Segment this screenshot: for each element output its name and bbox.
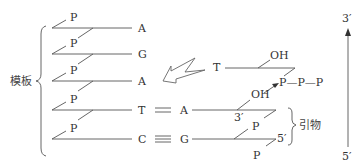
primer-base-label: A bbox=[179, 104, 189, 117]
triple-bond-icon bbox=[155, 136, 171, 142]
phosphate-label: P bbox=[70, 11, 78, 24]
primer-nucleotide-1: A OH 3′ P bbox=[179, 88, 276, 133]
incoming-nucleotide: T OH P—P—P bbox=[213, 49, 324, 89]
base-label: A bbox=[137, 22, 147, 35]
double-bond-icon bbox=[155, 108, 171, 112]
incoming-base-label: T bbox=[213, 61, 221, 74]
triphosphate-label: P—P—P bbox=[279, 76, 324, 89]
template-nucleotide-5: P C bbox=[52, 122, 146, 146]
hydroxyl-label: OH bbox=[251, 88, 270, 101]
template-nucleotide-1: P A bbox=[52, 11, 147, 38]
phosphate-label: P bbox=[70, 93, 78, 106]
phosphate-label: P bbox=[252, 120, 260, 133]
primer-base-label: G bbox=[180, 133, 189, 146]
base-label: G bbox=[138, 48, 147, 61]
diagram-canvas: 模板 P A P G P A P bbox=[0, 0, 362, 167]
primer-group: 引物 bbox=[288, 108, 321, 145]
axis-arrowhead-icon bbox=[345, 28, 351, 36]
direction-axis: 3′ 5′ bbox=[342, 12, 352, 163]
five-prime-label: 5′ bbox=[277, 132, 287, 145]
phosphate-label: P bbox=[70, 64, 78, 77]
template-brace bbox=[36, 26, 46, 156]
template-nucleotide-3: P A bbox=[52, 64, 147, 91]
template-nucleotide-2: P G bbox=[52, 37, 147, 64]
template-group: 模板 bbox=[10, 26, 46, 156]
hydroxyl-label: OH bbox=[270, 49, 289, 62]
base-label: T bbox=[138, 104, 146, 117]
primer-strand: A OH 3′ P G 5′ P bbox=[179, 88, 287, 162]
template-nucleotide-4: P T bbox=[52, 93, 146, 120]
phosphate-label: P bbox=[253, 149, 261, 162]
base-label: A bbox=[137, 75, 147, 88]
axis-top-label: 3′ bbox=[342, 12, 352, 25]
primer-brace bbox=[288, 108, 296, 145]
base-label: C bbox=[138, 133, 146, 146]
template-label: 模板 bbox=[10, 74, 32, 88]
hollow-arrow-icon bbox=[163, 58, 205, 83]
phosphate-label: P bbox=[70, 37, 78, 50]
template-strand: P A P G P A P T bbox=[52, 11, 147, 146]
primer-label: 引物 bbox=[299, 118, 321, 132]
phosphate-label: P bbox=[70, 122, 78, 135]
base-pair-bonds bbox=[155, 108, 171, 142]
axis-bottom-label: 5′ bbox=[342, 150, 352, 163]
primer-nucleotide-2: G 5′ P bbox=[180, 129, 287, 162]
three-prime-label: 3′ bbox=[234, 111, 244, 124]
